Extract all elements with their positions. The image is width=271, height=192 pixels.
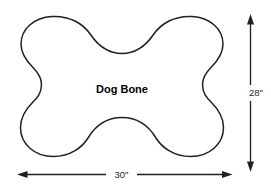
arrow-up-icon [247,14,254,25]
arrow-left-icon [17,171,28,178]
arrow-right-icon [222,171,233,178]
height-dimension-label: 28" [249,87,263,98]
shape-label: Dog Bone [96,83,148,95]
width-dimension-label: 30" [115,169,129,180]
diagram-canvas: Dog Bone 28" 30" [0,0,271,192]
arrow-down-icon [247,162,254,173]
width-dimension: 30" [17,169,233,180]
dog-bone-diagram: Dog Bone 28" 30" [0,0,271,192]
height-dimension: 28" [247,14,263,172]
